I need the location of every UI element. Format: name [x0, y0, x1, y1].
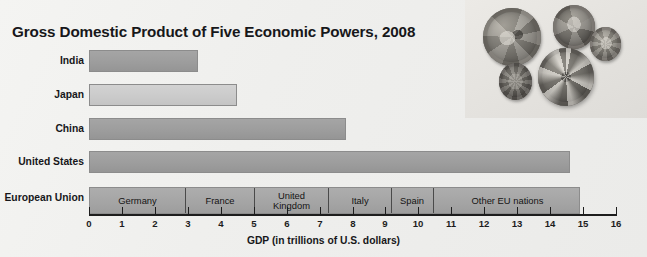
x-tick-14	[550, 207, 551, 216]
small-coin-right-relief	[590, 27, 621, 61]
two-euro-relief	[483, 8, 541, 66]
large-coin-bottom-center	[538, 48, 594, 106]
small-coin-bottom-left	[499, 63, 532, 100]
x-tick-label-15: 15	[573, 219, 593, 229]
category-label-india: India	[60, 56, 84, 66]
eu-segment-label: United Kingdom	[273, 191, 310, 210]
x-tick-11	[451, 207, 452, 216]
x-tick-13	[517, 207, 518, 216]
category-label-china: China	[55, 124, 84, 134]
x-tick-16	[616, 207, 617, 216]
bar-china	[89, 118, 346, 140]
x-tick-label-11: 11	[441, 219, 461, 229]
x-tick-label-4: 4	[211, 219, 231, 229]
x-axis-title: GDP (in trillions of U.S. dollars)	[0, 235, 647, 246]
small-coin-left-relief	[499, 63, 532, 100]
x-tick-label-5: 5	[244, 219, 264, 229]
x-tick-label-13: 13	[507, 219, 527, 229]
foreign-coin-top-right	[553, 5, 595, 49]
x-tick-12	[484, 207, 485, 216]
x-tick-6	[287, 207, 288, 216]
x-tick-1	[122, 207, 123, 216]
x-tick-5	[254, 207, 255, 216]
x-tick-9	[385, 207, 386, 216]
x-tick-8	[353, 207, 354, 216]
eu-segment-italy: Italy	[329, 188, 392, 213]
x-tick-label-0: 0	[79, 219, 99, 229]
x-tick-15	[583, 207, 584, 216]
x-tick-label-6: 6	[277, 219, 297, 229]
bar-japan	[89, 84, 237, 106]
eu-segment-other-eu-nations: Other EU nations	[434, 188, 580, 213]
x-tick-label-10: 10	[408, 219, 428, 229]
eu-segment-spain: Spain	[391, 188, 434, 213]
x-tick-label-2: 2	[145, 219, 165, 229]
eu-segment-label: France	[205, 196, 234, 206]
x-tick-label-8: 8	[343, 219, 363, 229]
eu-segment-united-kingdom: United Kingdom	[255, 188, 329, 213]
x-tick-2	[155, 207, 156, 216]
eu-segment-label: Germany	[118, 196, 157, 206]
large-coin-relief	[538, 48, 594, 106]
x-tick-label-1: 1	[112, 219, 132, 229]
coins-photo	[465, 0, 647, 118]
eu-segment-germany: Germany	[90, 188, 186, 213]
foreign-coin-relief	[553, 5, 595, 49]
eu-segment-label: Italy	[351, 196, 368, 206]
eu-segment-label: Other EU nations	[472, 196, 544, 206]
small-coin-far-right	[590, 27, 621, 61]
x-tick-10	[418, 207, 419, 216]
x-tick-label-7: 7	[310, 219, 330, 229]
x-tick-label-16: 16	[606, 219, 626, 229]
x-tick-7	[320, 207, 321, 216]
x-tick-0	[89, 207, 90, 216]
category-label-european-union: European Union	[4, 193, 84, 203]
x-tick-label-14: 14	[540, 219, 560, 229]
x-tick-label-12: 12	[474, 219, 494, 229]
bar-united-states	[89, 151, 570, 173]
x-tick-4	[221, 207, 222, 216]
x-tick-3	[188, 207, 189, 216]
category-label-united-states: United States	[18, 157, 84, 167]
bar-india	[89, 50, 198, 72]
bar-european-union-stacked: GermanyFranceUnited KingdomItalySpainOth…	[89, 187, 580, 214]
gdp-bar-chart-figure: Gross Domestic Product of Five Economic …	[0, 0, 647, 257]
eu-segment-label: Spain	[400, 196, 424, 206]
category-label-japan: Japan	[54, 90, 84, 100]
two-euro-coin	[483, 8, 541, 66]
x-tick-label-9: 9	[375, 219, 395, 229]
x-tick-label-3: 3	[178, 219, 198, 229]
